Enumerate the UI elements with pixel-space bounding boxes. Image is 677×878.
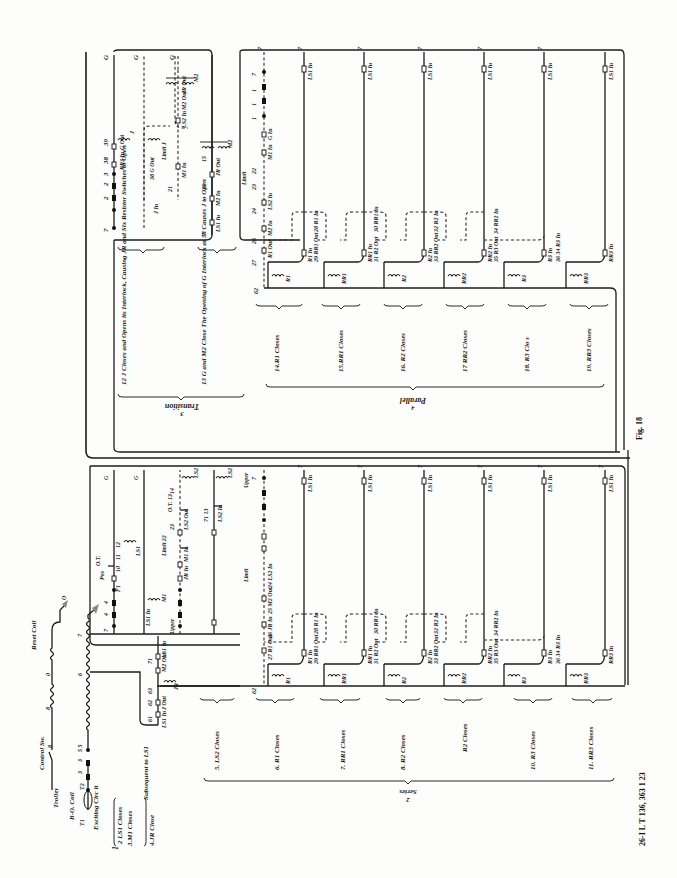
contact-29-rr1-out: 29 RR1 Out <box>313 634 319 665</box>
ground-o-label: O <box>61 595 67 600</box>
limit-label: Limit <box>241 171 247 186</box>
coil-m2: M2 <box>193 74 199 83</box>
contact-jr-out: JR Out <box>181 76 187 95</box>
contact-36-r3-in: 36 34 R3 In <box>555 232 561 263</box>
contact-ls1-in: LS1 In <box>161 710 167 729</box>
contact-31-r2-out: 31 R2 Out <box>373 236 379 263</box>
contact-28-r1-in: 28 R1 In <box>313 210 319 233</box>
contact-34-rr2-in: 34 RR2 In <box>493 610 499 637</box>
ls1-in-label: LS1 In <box>367 62 373 81</box>
contact-ls1-in: LS1 In <box>145 608 151 627</box>
wire-label-7: 7 <box>537 46 543 50</box>
parallel-steps: 14.R1 Closes 15.RR1 Closes 16. R2 Closes… <box>256 304 608 412</box>
coil-rr3: RR3 <box>583 273 589 285</box>
wire-label-7: 7 <box>477 46 483 50</box>
wire-label-7: 7 <box>251 72 257 76</box>
section-parallel-title: Parallel <box>399 396 426 405</box>
contact-ls2-in: LS2 In <box>267 192 273 211</box>
contact-m2-in: M2 In <box>215 190 221 207</box>
contact-ls1-in: LS1 In <box>161 640 167 659</box>
coil-rr1: RR1 <box>341 673 347 685</box>
wire-label-7: 7 <box>77 633 83 637</box>
parallel-step-15: 15.RR1 Closes <box>337 330 345 372</box>
coil-ls1: LS1 <box>135 546 141 557</box>
series-step-10: 10. R3 Closes <box>529 731 537 770</box>
wire-label-7: 7 <box>417 46 423 50</box>
series-step-2: 2 LS1 Closes <box>116 806 124 845</box>
series-step-11: 11. RR3 Closes <box>587 726 595 770</box>
wire-label-7: 7 <box>537 464 543 468</box>
parallel-step-18: 18. R3 Clo s <box>523 337 531 372</box>
wire-label-8: 8 <box>45 707 51 710</box>
bo-coil-label: B-O. Coil <box>68 792 76 821</box>
wiring-diagram-page: G G G 7 2 2 3 38 39 RR3 In G Out J In 38… <box>0 0 677 878</box>
wire-label-7: 7 <box>251 476 257 480</box>
figure-annotations: Fig. 18 26-I L T 136, 363 1 23 <box>628 417 647 846</box>
coil-rr2: RR2 <box>461 273 467 285</box>
wire-label-g: G <box>133 475 139 480</box>
wire-label-6: 6 <box>77 673 83 676</box>
section-series-number: 2 <box>406 796 411 804</box>
wire-label-10: 10 <box>115 566 121 572</box>
wire-label-2: 2 <box>102 196 110 201</box>
coil-rr3: RR3 <box>583 673 589 685</box>
parallel-step-17: 17 RR2 Closes <box>461 330 469 372</box>
contact-33-rr2-out: 33 RR2 Out <box>433 634 439 665</box>
exciting-circuit: Trolley Control Sw. 8 8 0 Reset Coil O B… <box>30 595 240 831</box>
reset-coil-label: Reset Coil <box>30 621 38 651</box>
coil-r2: R2 <box>401 275 407 283</box>
contact-32-r2-in: 32 R2 In <box>433 210 439 233</box>
wire-label-2: 2 <box>102 182 110 187</box>
series-step-5: 5. LS2 Closes <box>213 731 221 770</box>
ff-label: F1 <box>115 585 121 592</box>
wire-label-0: 0 <box>45 673 51 676</box>
contact-g-in: G In <box>267 128 273 140</box>
wire-label-1: 1 <box>251 117 257 120</box>
feed-rr3-in: RR3 In <box>608 243 614 263</box>
frame <box>86 50 630 686</box>
transition-step-12: 12 J Closes and Opens its Interlock, Cau… <box>120 145 128 385</box>
wire-label-15: 15 <box>201 156 207 162</box>
exciting-circuit-label: Exciting Circ it <box>92 785 100 831</box>
contact-m2-in: M2 In <box>267 220 273 237</box>
contact-j-in: J In <box>153 203 159 215</box>
series-step-9: R2 Closes <box>461 723 469 753</box>
section-transition-title: Transition <box>164 402 199 411</box>
wire-label-7: 7 <box>297 46 303 50</box>
contact-36-r3-in: 36 34 R3 In <box>555 634 561 665</box>
wire-label-4: 4 <box>103 601 109 605</box>
t1-label: T1 <box>79 819 85 826</box>
contact-m1-in: M1 In <box>181 162 187 179</box>
wire-label-7: 7 <box>102 228 110 232</box>
wire-label-24: 24 <box>251 208 257 215</box>
series-resistor-circuit: 7 7 7 7 7 7 7 Upper Limit 62 27 R1 Out 2… <box>243 464 614 694</box>
ls1-in-label: LS1 In <box>608 474 614 493</box>
coil-rr1: RR1 <box>341 273 347 285</box>
wire-label-5: 5 5 <box>77 745 83 753</box>
contact-38-g-out: 38 G Out <box>149 157 155 181</box>
ls1-in-label: LS1 In <box>367 474 373 493</box>
contact-34-rr2-in: 34 RR2 In <box>493 208 499 235</box>
wire-label-22: 22 <box>251 168 257 175</box>
transition-step-13: 13 G and M2 Close The Opening of G Inter… <box>200 179 208 385</box>
series-step-6: 6. R1 Closes <box>273 734 281 770</box>
wire-label-8: 8 <box>47 745 53 748</box>
contact-m2-out: 25 M2 Out <box>267 587 273 615</box>
wire-label-g: G <box>102 55 110 60</box>
wire-label-71: 71 <box>147 658 153 664</box>
wire-label-g: G <box>168 55 176 60</box>
wire-label-38: 38 <box>102 157 110 166</box>
wire-label-g: G <box>132 55 140 60</box>
wire-label-7: 7 <box>417 464 423 468</box>
series-early-steps: 2 LS1 Closes 3.M1 Closes 4.JR Close Subs… <box>111 746 156 850</box>
wire-label-7: 7 <box>257 46 263 50</box>
coil-r3: R3 <box>521 677 527 685</box>
coil-m1: M1 <box>161 594 167 603</box>
feed-rr3-in: RR3 In <box>608 645 614 665</box>
control-circuit-schematic: G G G 7 2 2 3 38 39 RR3 In G Out J In 38… <box>0 0 677 878</box>
wire-label-71-13: 71 13 <box>203 509 209 523</box>
coil-m2: M2 <box>227 140 233 149</box>
parallel-step-19: 19. RR3 Closes <box>585 328 593 372</box>
upper-label: Upper <box>169 618 175 634</box>
contact-j-out: J Out <box>161 696 167 711</box>
